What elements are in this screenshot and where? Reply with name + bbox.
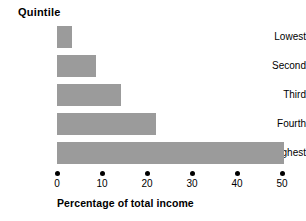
bar-row: Fourth: [0, 113, 306, 135]
x-tick-marker: [145, 171, 150, 176]
x-tick-label-50: 50: [267, 178, 297, 189]
bar-row: Highest: [0, 142, 306, 164]
category-label-second: Second: [257, 55, 306, 77]
x-tick-label-30: 30: [177, 178, 207, 189]
x-tick-label-0: 0: [42, 178, 72, 189]
bar-row: Third: [0, 84, 306, 106]
bar-highest: [57, 142, 284, 164]
bar-lowest: [57, 26, 72, 48]
bar-third: [57, 84, 121, 106]
category-label-lowest: Lowest: [257, 26, 306, 48]
bar-row: Lowest: [0, 26, 306, 48]
bar-fourth: [57, 113, 156, 135]
category-label-third: Third: [257, 84, 306, 106]
plot-area: Lowest Second Third Fourth Highest 0 10 …: [0, 0, 306, 221]
x-tick-label-20: 20: [132, 178, 162, 189]
category-label-fourth: Fourth: [257, 113, 306, 135]
x-tick-marker: [100, 171, 105, 176]
bar-row: Second: [0, 55, 306, 77]
bar-second: [57, 55, 96, 77]
x-tick-label-40: 40: [222, 178, 252, 189]
x-tick-label-10: 10: [87, 178, 117, 189]
x-tick-marker: [55, 171, 60, 176]
x-axis-title: Percentage of total income: [57, 197, 194, 209]
x-tick-marker: [190, 171, 195, 176]
x-tick-marker: [280, 171, 285, 176]
x-tick-marker: [235, 171, 240, 176]
bar-chart: Quintile Lowest Second Third Fourth High…: [0, 0, 306, 221]
